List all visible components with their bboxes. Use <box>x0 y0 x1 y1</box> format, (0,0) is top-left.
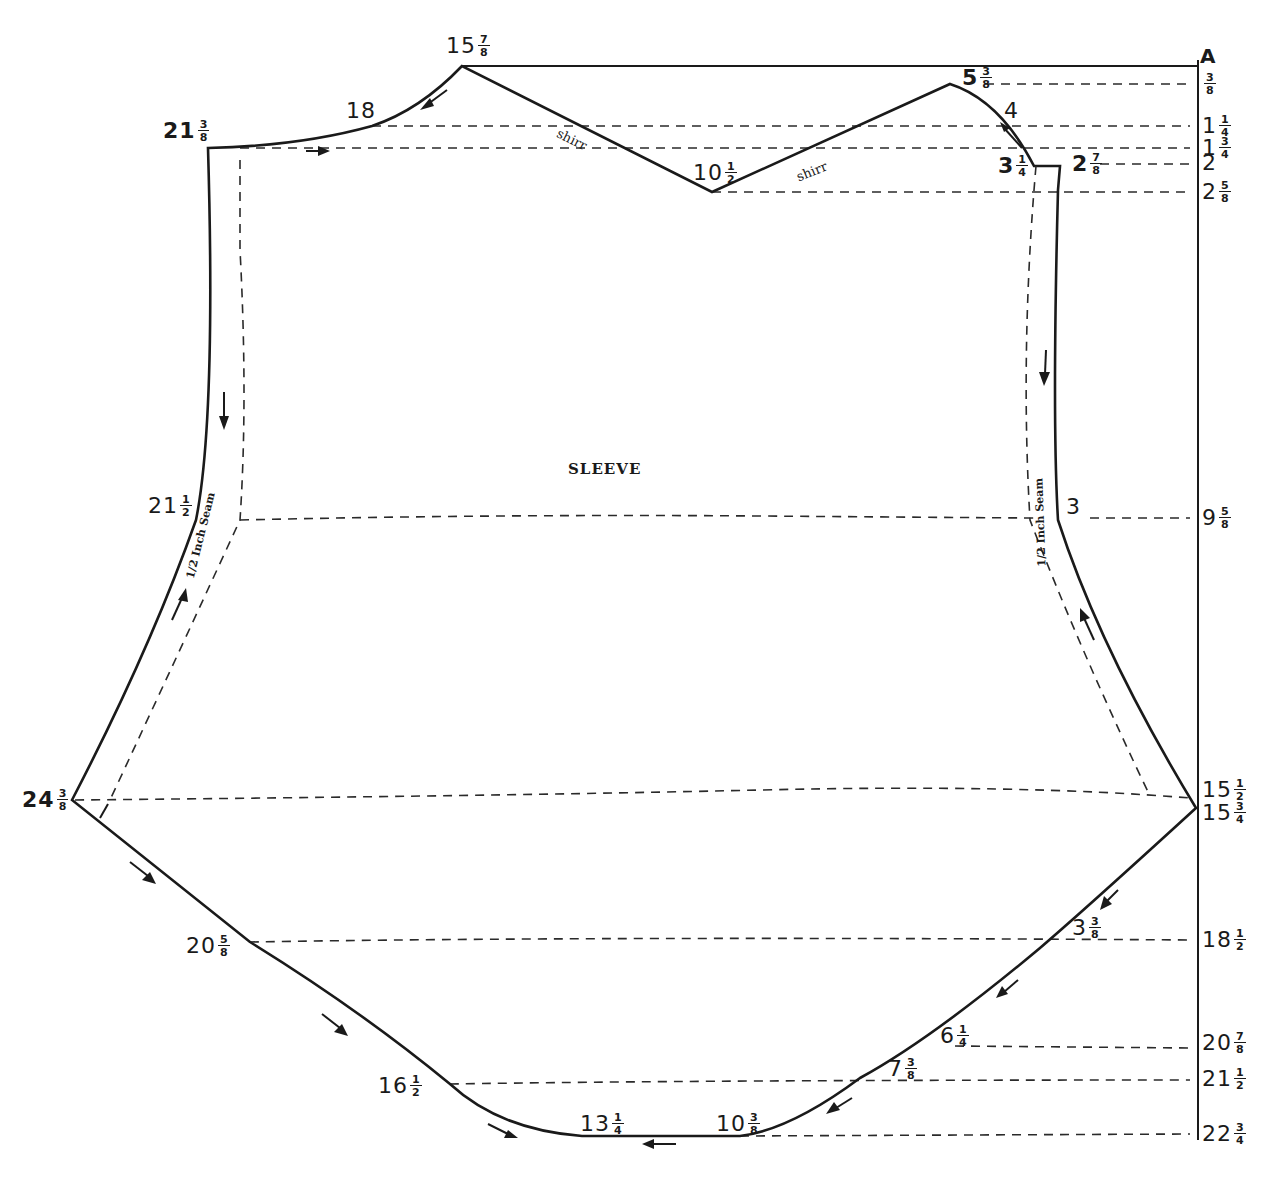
point-lower-left-label: 2058 <box>186 934 230 958</box>
fraction-numerator: 1 <box>1016 154 1028 165</box>
guide-lines <box>75 84 1190 1136</box>
point-right-notch-label: 314 <box>998 154 1028 178</box>
fraction-numerator: 3 <box>905 1057 917 1068</box>
measurement-fraction: 14 <box>1016 154 1028 178</box>
measurement-fraction: 38 <box>905 1057 917 1081</box>
fraction-numerator: 1 <box>1234 928 1246 939</box>
fraction-numerator: 1 <box>957 1024 969 1035</box>
fraction-denominator: 4 <box>1234 812 1246 825</box>
fraction-denominator: 8 <box>218 945 230 958</box>
measurement-whole: 18 <box>346 98 376 123</box>
point-left-mid-label: 2112 <box>148 494 192 518</box>
pattern-drawing <box>0 0 1273 1185</box>
measurement-fraction: 78 <box>478 34 490 58</box>
fraction-numerator: 3 <box>1234 1122 1246 1133</box>
fraction-denominator: 8 <box>198 130 210 143</box>
measurement-fraction: 12 <box>410 1074 422 1098</box>
fraction-numerator: 3 <box>1234 801 1246 812</box>
fraction-denominator: 8 <box>905 1068 917 1081</box>
measurement-whole: 9 <box>1202 505 1217 530</box>
measurement-whole: 15 <box>446 33 476 58</box>
scale-mark-label: 1812 <box>1202 928 1246 952</box>
scale-mark-label: 2112 <box>1202 1067 1246 1091</box>
fraction-denominator: 8 <box>980 77 992 90</box>
fraction-denominator: 8 <box>1219 517 1231 530</box>
point-top-peak-label: 1578 <box>446 34 490 58</box>
measurement-whole: 10 <box>716 1111 746 1136</box>
point-cap-18-label: 18 <box>346 100 376 122</box>
fraction-denominator: 2 <box>1234 939 1246 952</box>
fraction-numerator: 1 <box>1234 1067 1246 1078</box>
measurement-whole: 21 <box>163 118 196 143</box>
fraction-numerator: 1 <box>1219 114 1231 125</box>
point-bottom-b-label: 1038 <box>716 1112 760 1136</box>
corner-seam-tick <box>100 804 108 818</box>
direction-arrows <box>130 90 1118 1149</box>
measurement-whole: 21 <box>1202 1066 1232 1091</box>
measurement-whole: 2 <box>1202 150 1217 175</box>
measurement-fraction: 38 <box>980 66 992 90</box>
measurement-whole: 18 <box>1202 927 1232 952</box>
measurement-fraction: 14 <box>612 1112 624 1136</box>
measurement-fraction: 38 <box>198 119 210 143</box>
fraction-denominator: 8 <box>57 799 69 812</box>
fraction-denominator: 2 <box>1234 1078 1246 1091</box>
scale-mark-label: 2078 <box>1202 1031 1246 1055</box>
measurement-whole: 24 <box>22 787 55 812</box>
point-bottom-r1-label: 614 <box>940 1024 969 1048</box>
fraction-denominator: 8 <box>748 1123 760 1136</box>
point-lower-right-label: 338 <box>1072 916 1101 940</box>
fraction-numerator: 1 <box>612 1112 624 1123</box>
fraction-numerator: 3 <box>980 66 992 77</box>
fraction-numerator: 3 <box>1089 916 1101 927</box>
point-right-peak-label: 538 <box>962 66 992 90</box>
measurement-whole: 15 <box>1202 800 1232 825</box>
point-bottom-a-label: 1314 <box>580 1112 624 1136</box>
scale-mark-label: 958 <box>1202 506 1231 530</box>
fraction-numerator: 5 <box>1219 180 1231 191</box>
fraction-numerator: 7 <box>1090 152 1102 163</box>
fraction-denominator: 8 <box>1219 191 1231 204</box>
fraction-denominator: 4 <box>1234 1133 1246 1146</box>
measurement-fraction: 58 <box>1219 506 1231 530</box>
measurement-fraction: 38 <box>57 788 69 812</box>
measurement-fraction: 34 <box>1234 1122 1246 1146</box>
scale-mark-label: 38 <box>1202 72 1216 96</box>
fraction-denominator: 8 <box>1090 163 1102 176</box>
left-seam-allowance <box>110 160 244 800</box>
fraction-numerator: 7 <box>1234 1031 1246 1042</box>
measurement-whole: 4 <box>1004 98 1019 123</box>
measurement-whole: 6 <box>940 1023 955 1048</box>
measurement-fraction: 34 <box>1219 136 1231 160</box>
fraction-denominator: 8 <box>1234 1042 1246 1055</box>
measurement-whole: 21 <box>148 493 178 518</box>
fraction-denominator: 2 <box>410 1085 422 1098</box>
point-right-corner-label: 278 <box>1072 152 1102 176</box>
fraction-denominator: 8 <box>478 45 490 58</box>
fraction-numerator: 1 <box>180 494 192 505</box>
measurement-whole: 10 <box>693 160 723 185</box>
measurement-fraction: 34 <box>1234 801 1246 825</box>
measurement-whole: 20 <box>186 933 216 958</box>
measurement-whole: 7 <box>888 1056 903 1081</box>
fraction-denominator: 8 <box>1089 927 1101 940</box>
fraction-numerator: 3 <box>748 1112 760 1123</box>
measurement-whole: 16 <box>378 1073 408 1098</box>
scale-mark-label: 2234 <box>1202 1122 1246 1146</box>
point-left-point-label: 2438 <box>22 788 68 812</box>
measurement-fraction: 38 <box>748 1112 760 1136</box>
point-bottom-left-label: 1612 <box>378 1074 422 1098</box>
measurement-fraction: 12 <box>725 161 737 185</box>
measurement-whole: 2 <box>1202 179 1217 204</box>
fraction-denominator: 2 <box>180 505 192 518</box>
measurement-fraction: 12 <box>1234 928 1246 952</box>
fraction-numerator: 5 <box>1219 506 1231 517</box>
measurement-whole: 13 <box>580 1111 610 1136</box>
point-a-label: A <box>1200 44 1215 68</box>
fraction-denominator: 4 <box>612 1123 624 1136</box>
measurement-fraction: 38 <box>1204 72 1216 96</box>
point-right-mid-label: 3 <box>1066 496 1081 518</box>
fraction-numerator: 3 <box>57 788 69 799</box>
point-center-v-label: 1012 <box>693 161 737 185</box>
scale-mark-label: 1534 <box>1202 801 1246 825</box>
